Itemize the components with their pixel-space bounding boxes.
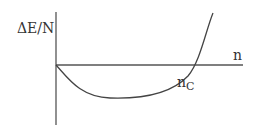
y-axis-label: ΔE/N bbox=[17, 21, 54, 35]
critical-point-label-main: n bbox=[177, 74, 186, 90]
diagram-canvas: ΔE/N n nC bbox=[0, 0, 257, 128]
critical-point-label: nC bbox=[177, 75, 194, 89]
critical-point-label-sub: C bbox=[186, 80, 194, 93]
x-axis-label: n bbox=[233, 48, 242, 62]
